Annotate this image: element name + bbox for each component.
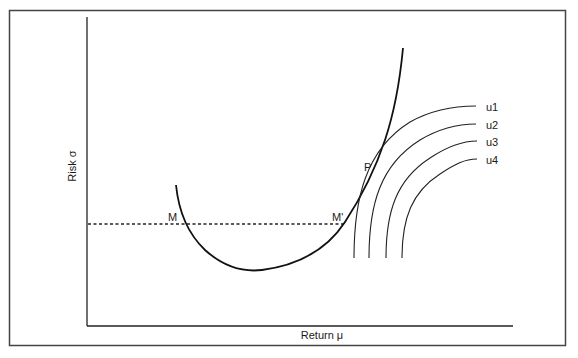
label-u4: u4 xyxy=(486,154,498,166)
indifference-curve-u4 xyxy=(402,159,477,258)
x-axis-label: Return μ xyxy=(301,329,343,341)
label-point-m: M xyxy=(168,211,177,223)
label-u2: u2 xyxy=(486,119,498,131)
efficient-frontier-curve xyxy=(176,48,403,270)
indifference-curve-u1 xyxy=(354,106,476,258)
label-point-p: P xyxy=(364,161,371,173)
label-u3: u3 xyxy=(486,136,498,148)
outer-frame xyxy=(10,11,566,346)
y-axis-label: Risk σ xyxy=(66,150,78,181)
label-u1: u1 xyxy=(486,101,498,113)
diagram-canvas: Risk σ Return μ u1 u2 u3 u4 M M' P xyxy=(0,0,578,358)
label-point-m-prime: M' xyxy=(332,211,343,223)
indifference-curve-u3 xyxy=(386,141,477,258)
